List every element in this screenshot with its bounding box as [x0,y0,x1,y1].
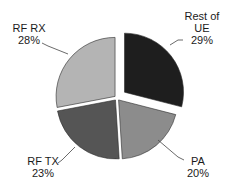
label-rest-of-ue-pct: 29% [180,34,224,46]
label-pa-name: PA [181,155,215,167]
label-rest-of-ue: Rest of UE 29% [180,10,224,46]
label-rf-tx-name: RF TX [22,155,64,167]
label-pa: PA 20% [181,155,215,179]
label-rf-rx-name: RF RX [8,22,50,34]
pie-slice-rf-rx [56,37,115,107]
label-rf-rx: RF RX 28% [8,22,50,46]
pie-slice-rest-of-ue [125,33,184,107]
label-rf-rx-pct: 28% [8,34,50,46]
label-rf-tx-pct: 23% [22,167,64,179]
pie-slice-rf-tx [58,100,120,159]
label-rest-of-ue-line2: UE [180,22,224,34]
label-rf-tx: RF TX 23% [22,155,64,179]
pie-slice-pa [119,100,176,159]
label-rest-of-ue-line1: Rest of [180,10,224,22]
label-pa-pct: 20% [181,167,215,179]
pie-slices [56,33,183,159]
